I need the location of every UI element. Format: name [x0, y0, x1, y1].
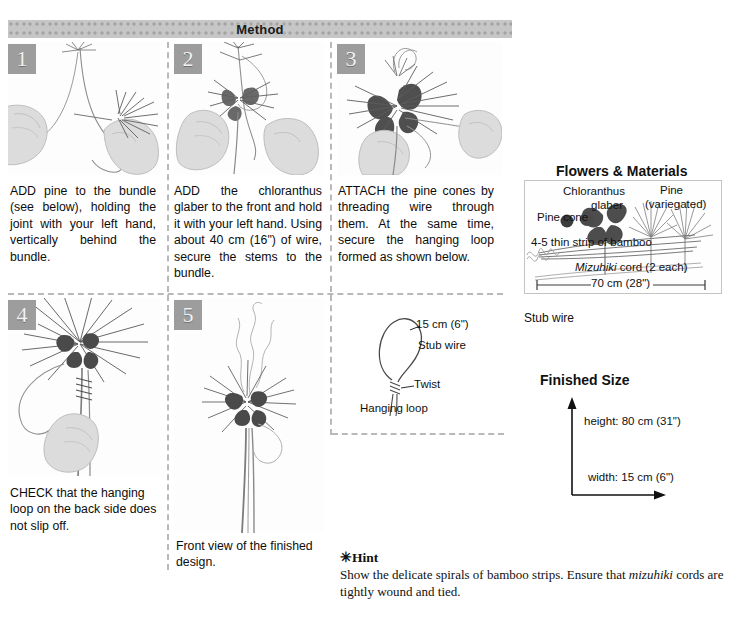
hint-title: ✳Hint: [340, 549, 378, 566]
step-5-photo: [174, 298, 324, 533]
finished-width-label: width: 15 cm (6"): [588, 471, 674, 483]
hint-body: Show the delicate spirals of bamboo stri…: [340, 566, 730, 600]
mizuhiki-italic-word: Mizuhiki: [575, 261, 617, 273]
divider-row1-row2: [8, 293, 503, 295]
mizuhiki-rest: cord (2 each): [617, 261, 688, 273]
materials-title: Flowers & Materials: [556, 163, 688, 179]
material-label-bamboo: 4-5 thin strip of bamboo: [531, 235, 652, 249]
step-1-caption: ADD pine to the bundle (see below), hold…: [10, 183, 156, 265]
loop-length-label: 15 cm (6"): [416, 318, 469, 330]
step-5-caption: Front view of the finished design.: [176, 538, 326, 571]
loop-twist-label: Twist: [414, 378, 440, 390]
finished-size-title: Finished Size: [540, 372, 629, 388]
stub-wire-label: Stub wire: [524, 311, 574, 325]
material-label-chloranthus-line1: Chloranthus: [563, 184, 625, 198]
step-4-caption: CHECK that the hanging loop on the back …: [10, 485, 160, 534]
hint-italic-word: mizuhiki: [629, 567, 673, 582]
material-label-pine-line1: Pine: [660, 183, 683, 197]
material-label-mizuhiki: Mizuhiki cord (2 each): [575, 260, 688, 274]
material-label-pine-line2: (variegated): [645, 197, 706, 211]
worksheet-page: Method 1: [0, 0, 730, 635]
material-label-chloranthus-line2: glaber: [591, 198, 623, 212]
step-number-badge: 5: [174, 300, 202, 330]
loop-caption: Hanging loop: [360, 402, 428, 414]
loop-stub-wire-label: Stub wire: [418, 339, 466, 351]
finished-height-label: height: 80 cm (31"): [584, 415, 681, 427]
page-title: Method: [8, 20, 512, 38]
materials-box: Chloranthus glaber Pine (variegated) Pin…: [524, 180, 722, 294]
finished-size-diagram: height: 80 cm (31") width: 15 cm (6"): [560, 395, 710, 500]
step-3-caption: ATTACH the pine cones by threading wire …: [338, 183, 494, 265]
step-number-badge: 4: [8, 300, 36, 330]
step-number-badge: 3: [337, 44, 365, 74]
divider-col2-col3-top: [330, 42, 332, 292]
hint-text-part1: Show the delicate spirals of bamboo stri…: [340, 567, 629, 582]
step-2-caption: ADD the chloranthus glaber to the front …: [174, 183, 322, 281]
method-header-band: Method: [8, 20, 512, 38]
material-label-pine-cone: Pine cone: [537, 210, 588, 224]
divider-col2-col3-bottom: [330, 295, 332, 435]
material-length-label: 70 cm (28"): [591, 276, 650, 290]
divider-col1-col2-top: [167, 42, 169, 292]
step-number-badge: 1: [8, 44, 36, 74]
hanging-loop-diagram: 15 cm (6") Stub wire Twist Hanging loop: [352, 312, 502, 417]
divider-hint-top: [332, 433, 504, 435]
step-number-badge: 2: [174, 44, 202, 74]
divider-col1-col2-bottom: [167, 295, 169, 570]
